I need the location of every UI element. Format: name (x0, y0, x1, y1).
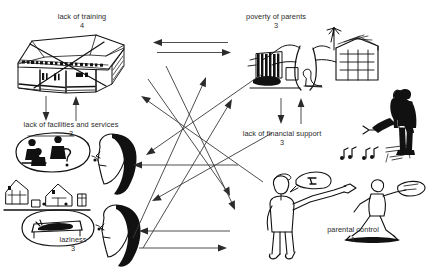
node-score: 3 (38, 244, 108, 253)
node-score: 3 (222, 138, 342, 147)
node-score: 4 (32, 21, 132, 30)
illustration-lack-of-training (18, 35, 124, 93)
connector-bottom-horizontal-left (139, 227, 230, 234)
connector-bottom-horizontal-right (139, 244, 227, 251)
connector-poverty-down (278, 98, 285, 124)
connector-poverty-up (298, 98, 305, 124)
connector-top-pair-rightward (157, 49, 231, 56)
node-label-text: poverty of parents (246, 12, 306, 21)
node-label-parental-control: parental control 1 (322, 225, 384, 244)
illustration-lack-of-facilities-and-services (4, 133, 137, 210)
node-score: 1 (322, 235, 384, 245)
node-label-text: lack of financial support (243, 129, 321, 138)
connector-mid-horizontal-left (133, 161, 238, 168)
connector-top-pair-leftward (153, 39, 228, 46)
node-score: 3 (1, 129, 141, 138)
connector-diagonal-up-right-1 (133, 77, 206, 238)
node-label-lack-of-training: lack of training 4 (32, 12, 132, 30)
connector-house-down (43, 96, 50, 121)
node-label-text: lack of facilities and services (24, 120, 119, 129)
illustration-parental-control (267, 172, 425, 259)
node-label-lack-of-financial-support: lack of financial support 3 (222, 129, 342, 147)
node-label-text: laziness (59, 235, 86, 244)
node-label-text: parental control (327, 225, 379, 234)
node-label-laziness: laziness 3 (38, 235, 108, 253)
connector-house-up (73, 96, 80, 121)
node-score: 3 (221, 21, 331, 30)
illustration-poverty-of-parents (248, 28, 378, 90)
connector-diagonal-up-right-2 (143, 99, 232, 248)
node-label-text: lack of training (58, 12, 106, 21)
node-label-poverty-of-parents: poverty of parents 3 (221, 12, 331, 30)
node-label-lack-of-facilities-and-services: lack of facilities and services 3 (1, 120, 141, 138)
